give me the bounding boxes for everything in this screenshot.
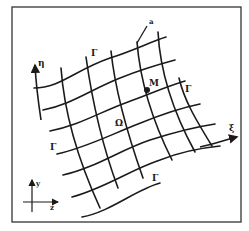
xi-label: ξ	[229, 123, 234, 133]
eta-label: η	[38, 58, 45, 68]
region-omega-label: Ω	[115, 118, 123, 128]
z-axis-label: z	[50, 203, 54, 212]
grid-lines	[34, 32, 220, 217]
boundary-gamma-label-left: Γ	[50, 142, 57, 152]
pointer-a-line	[137, 26, 147, 43]
boundary-gamma-label-bottom: Γ	[152, 173, 159, 183]
pointer-a-label: a	[149, 17, 154, 26]
eta-axis-arrow	[35, 65, 41, 120]
y-axis-label: y	[35, 179, 41, 188]
boundary-gamma-label-top: Γ	[91, 48, 98, 58]
grid-diagram: η ξ M a Ω Γ Γ Γ Γ y z	[0, 0, 249, 231]
point-m-label: M	[149, 78, 159, 88]
figure: η ξ M a Ω Γ Γ Γ Γ y z	[0, 0, 249, 231]
frame-border	[12, 7, 241, 222]
boundary-gamma-label-right: Γ	[185, 84, 192, 94]
